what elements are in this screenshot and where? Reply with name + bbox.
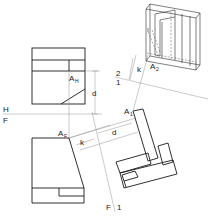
point-a-2-sub: 2 xyxy=(156,66,159,72)
fold-label-1-bottom: 1 xyxy=(117,203,122,212)
dimension-k-front xyxy=(76,139,94,145)
projection-a1-a2 xyxy=(130,55,148,111)
fold-label-1: 1 xyxy=(116,78,121,87)
auxiliary-view-2 xyxy=(146,4,200,70)
point-a-h-sub: H xyxy=(75,78,79,84)
fold-label-f-bottom: F xyxy=(106,203,111,212)
dim-k-aux2-label: k xyxy=(137,65,142,74)
dim-d-aux-label: d xyxy=(112,128,116,137)
point-a-1-sub: 1 xyxy=(130,111,133,117)
dim-d-top-label: d xyxy=(92,89,96,98)
fold-label-f: F xyxy=(3,116,8,125)
auxiliary-view-1 xyxy=(116,109,177,188)
dim-k-front-label: k xyxy=(80,138,85,147)
fold-line-1-2 xyxy=(115,77,208,99)
fold-label-h: H xyxy=(3,105,9,114)
point-a-f-sub: F xyxy=(64,133,67,139)
front-view xyxy=(32,138,84,203)
fold-label-2: 2 xyxy=(116,69,121,78)
top-view xyxy=(32,48,85,140)
drawing-canvas: H F A H d A F k d A 1 F 1 2 1 k A 2 xyxy=(0,0,211,218)
